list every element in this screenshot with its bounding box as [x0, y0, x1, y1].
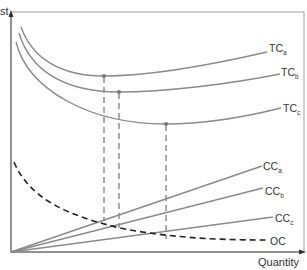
curve-labels: TCa TCb TCc CCa CCb CCc OC [263, 42, 301, 247]
label-tc-b: TCb [281, 66, 299, 80]
label-oc: OC [270, 235, 286, 247]
y-axis-arrow-icon [9, 10, 14, 17]
label-tc-c: TCc [283, 102, 301, 116]
label-cc-b: CCb [265, 185, 284, 199]
cost-curves-diagram: st Quantity TCa TCb TCc CCa CCb CCc OC [0, 0, 307, 270]
plot-frame [11, 12, 304, 252]
curve-tc-c [16, 42, 281, 124]
label-cc-a: CCa [263, 160, 282, 174]
min-marker-c [164, 122, 168, 126]
label-cc-c: CCc [275, 212, 294, 226]
curve-oc [14, 162, 266, 240]
label-tc-a: TCa [269, 42, 287, 56]
total-cost-curves [16, 27, 281, 124]
min-marker-a [102, 74, 106, 78]
line-cc-b [11, 188, 263, 252]
min-marker-b [117, 90, 121, 94]
curve-tc-b [19, 33, 280, 92]
line-cc-c [11, 217, 273, 252]
x-axis-label: Quantity [258, 256, 299, 268]
x-axis-arrow-icon [299, 250, 306, 255]
y-axis-label: st [0, 5, 9, 17]
curve-tc-a [21, 27, 267, 76]
